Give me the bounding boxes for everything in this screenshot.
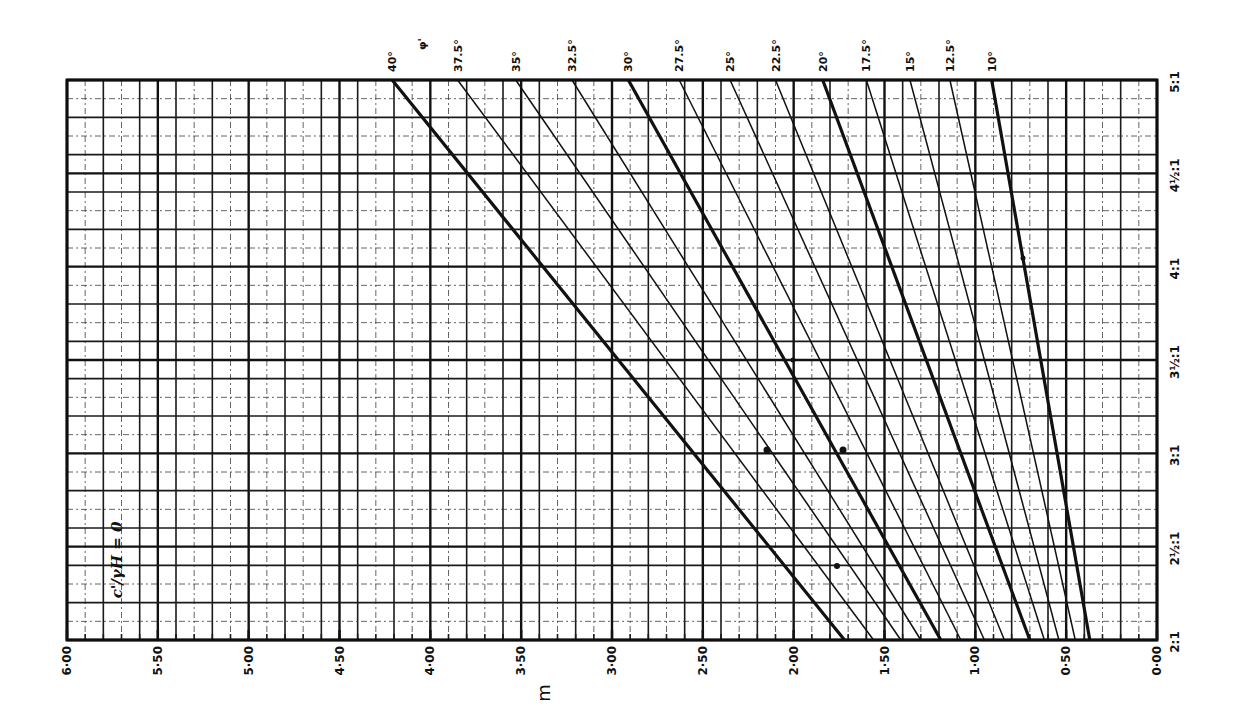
y-tick-label: 2:1 bbox=[1168, 631, 1182, 653]
svg-text:2:1: 2:1 bbox=[1168, 631, 1182, 653]
svg-text:1·50: 1·50 bbox=[878, 646, 892, 676]
svg-text:15°: 15° bbox=[904, 51, 917, 72]
phi-angle-label: 37.5° bbox=[452, 39, 465, 72]
x-tick-label: 2·50 bbox=[696, 646, 710, 676]
svg-text:2·00: 2·00 bbox=[787, 646, 801, 676]
x-tick-label: 2·00 bbox=[787, 646, 801, 676]
svg-text:4·50: 4·50 bbox=[333, 646, 347, 676]
marker bbox=[764, 447, 771, 454]
y-axis-ticks: 2:12½:13:13½:14:14½:15:1 bbox=[1168, 71, 1182, 653]
phi-angle-label: 27.5° bbox=[673, 39, 686, 72]
y-tick-label: 4:1 bbox=[1168, 258, 1182, 280]
svg-text:5·50: 5·50 bbox=[151, 646, 165, 676]
y-tick-label: 3½:1 bbox=[1168, 345, 1182, 379]
phi-angle-label: 15° bbox=[904, 51, 917, 72]
phi-symbol: φ' bbox=[416, 38, 429, 50]
svg-text:22.5°: 22.5° bbox=[770, 39, 783, 72]
annotation-c-over-gamma-h: c'/γH = 0 bbox=[108, 521, 126, 598]
x-tick-label: 6·00 bbox=[60, 646, 74, 676]
stability-chart: 6·005·505·004·504·003·503·002·502·001·50… bbox=[0, 0, 1240, 717]
y-tick-label: 4½:1 bbox=[1168, 158, 1182, 192]
phi-angle-label: 10° bbox=[986, 51, 999, 72]
svg-text:0·00: 0·00 bbox=[1150, 646, 1164, 676]
x-tick-label: 5·50 bbox=[151, 646, 165, 676]
svg-text:4·00: 4·00 bbox=[423, 646, 437, 676]
phi-angle-labels: 40°37.5°35°32.5°30°27.5°25°22.5°20°17.5°… bbox=[386, 39, 999, 72]
phi-angle-label: 20° bbox=[817, 51, 830, 72]
svg-text:5·00: 5·00 bbox=[242, 646, 256, 676]
svg-text:3·00: 3·00 bbox=[605, 646, 619, 676]
svg-text:2·50: 2·50 bbox=[696, 646, 710, 676]
x-tick-label: 3·50 bbox=[514, 646, 528, 676]
grid bbox=[67, 80, 1157, 640]
x-tick-label: 5·00 bbox=[242, 646, 256, 676]
x-axis-ticks: 6·005·505·004·504·003·503·002·502·001·50… bbox=[60, 630, 1164, 676]
x-tick-label: 4·50 bbox=[333, 646, 347, 676]
svg-text:6·00: 6·00 bbox=[60, 646, 74, 676]
x-tick-label: 3·00 bbox=[605, 646, 619, 676]
svg-text:12.5°: 12.5° bbox=[944, 39, 957, 72]
marker bbox=[834, 563, 840, 569]
y-tick-label: 5:1 bbox=[1168, 71, 1182, 93]
svg-text:40°: 40° bbox=[386, 51, 399, 72]
svg-text:3½:1: 3½:1 bbox=[1168, 345, 1182, 379]
svg-text:4:1: 4:1 bbox=[1168, 258, 1182, 280]
svg-text:3·50: 3·50 bbox=[514, 646, 528, 676]
svg-text:2½:1: 2½:1 bbox=[1168, 532, 1182, 566]
marker bbox=[840, 447, 847, 454]
svg-text:5:1: 5:1 bbox=[1168, 71, 1182, 93]
svg-text:3:1: 3:1 bbox=[1168, 445, 1182, 467]
svg-text:37.5°: 37.5° bbox=[452, 39, 465, 72]
svg-text:φ': φ' bbox=[416, 38, 429, 50]
annotation-text: c'/γH = 0 bbox=[108, 521, 126, 598]
phi-angle-label: 25° bbox=[724, 51, 737, 72]
x-tick-label: 0·50 bbox=[1059, 646, 1073, 676]
svg-text:4½:1: 4½:1 bbox=[1168, 158, 1182, 192]
phi-angle-label: 40° bbox=[386, 51, 399, 72]
x-tick-label: 1·50 bbox=[878, 646, 892, 676]
x-tick-label: 4·00 bbox=[423, 646, 437, 676]
phi-angle-label: 30° bbox=[622, 51, 635, 72]
svg-text:30°: 30° bbox=[622, 51, 635, 72]
svg-text:0·50: 0·50 bbox=[1059, 646, 1073, 676]
phi-angle-label: 35° bbox=[510, 51, 523, 72]
phi-angle-label: 17.5° bbox=[860, 39, 873, 72]
x-axis-label: m bbox=[533, 684, 554, 702]
phi-angle-label: 32.5° bbox=[566, 39, 579, 72]
svg-text:27.5°: 27.5° bbox=[673, 39, 686, 72]
y-tick-label: 3:1 bbox=[1168, 445, 1182, 467]
svg-text:10°: 10° bbox=[986, 51, 999, 72]
y-tick-label: 2½:1 bbox=[1168, 532, 1182, 566]
svg-text:25°: 25° bbox=[724, 51, 737, 72]
svg-text:17.5°: 17.5° bbox=[860, 39, 873, 72]
svg-text:20°: 20° bbox=[817, 51, 830, 72]
x-tick-label: 0·00 bbox=[1150, 646, 1164, 676]
marker bbox=[791, 358, 796, 363]
x-tick-label: 1·00 bbox=[968, 646, 982, 676]
phi-angle-label: 12.5° bbox=[944, 39, 957, 72]
svg-text:35°: 35° bbox=[510, 51, 523, 72]
phi-angle-label: 22.5° bbox=[770, 39, 783, 72]
svg-text:1·00: 1·00 bbox=[968, 646, 982, 676]
marker bbox=[1021, 256, 1026, 261]
svg-text:32.5°: 32.5° bbox=[566, 39, 579, 72]
